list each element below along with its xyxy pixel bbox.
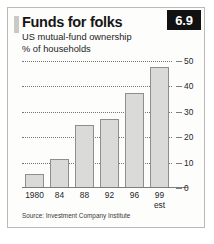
chart-title: Funds for folks xyxy=(22,14,122,30)
y-axis-labels: 01020304050 xyxy=(176,61,205,188)
y-axis-tick xyxy=(176,86,182,87)
y-axis-tick xyxy=(176,61,182,62)
bar xyxy=(50,159,69,188)
x-axis-tick-sublabel: est xyxy=(154,200,165,210)
y-axis-tick-label: 0 xyxy=(184,183,189,193)
chart-subtitle-primary: US mutual-fund ownership xyxy=(22,32,132,42)
bar xyxy=(150,67,169,188)
y-axis-tick xyxy=(176,112,182,113)
x-axis-line xyxy=(22,187,188,188)
bar xyxy=(100,119,119,188)
x-axis-tick-label: 84 xyxy=(55,190,64,200)
x-axis-tick-label: 96 xyxy=(130,190,139,200)
y-axis-tick xyxy=(176,137,182,138)
y-axis-tick-label: 20 xyxy=(184,132,193,142)
chart-header: Funds for folks US mutual-fund ownership… xyxy=(8,8,204,60)
bar xyxy=(25,174,44,188)
y-axis-tick-label: 40 xyxy=(184,81,193,91)
chart-figure: Funds for folks US mutual-fund ownership… xyxy=(7,7,205,228)
title-accent-bar xyxy=(14,16,19,33)
bar xyxy=(125,93,144,188)
source-note: Source: Investment Company Institute xyxy=(22,212,130,219)
y-axis-tick-label: 30 xyxy=(184,107,193,117)
x-axis-tick-label: 92 xyxy=(105,190,114,200)
bar xyxy=(75,125,94,189)
y-axis-tick xyxy=(176,163,182,164)
x-axis-tick-label: 88 xyxy=(80,190,89,200)
y-axis-tick-label: 10 xyxy=(184,158,193,168)
x-axis-tick-label: 1980 xyxy=(25,190,44,200)
figure-number-badge: 6.9 xyxy=(167,10,201,30)
y-axis-tick xyxy=(176,188,182,189)
plot-area xyxy=(22,61,172,188)
x-axis-tick-label: 99 xyxy=(155,190,164,200)
y-axis-tick-label: 50 xyxy=(184,56,193,66)
bar-series xyxy=(22,61,172,188)
chart-subtitle-units: % of households xyxy=(22,44,91,54)
